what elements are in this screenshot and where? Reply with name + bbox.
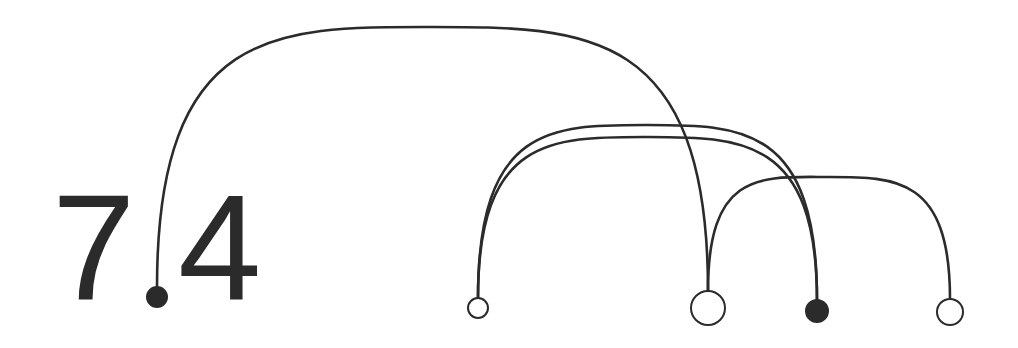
arc-diagram-canvas	[0, 0, 1018, 348]
open-node-E	[937, 299, 963, 325]
arc-B-D-outer	[478, 125, 817, 300]
arc-C-E	[708, 177, 950, 299]
filled-node-D	[806, 300, 828, 322]
digit-four-label: 4	[178, 172, 261, 322]
filled-node-A	[147, 287, 167, 307]
arc-diagram: 7 4	[0, 0, 1018, 348]
open-node-C	[691, 291, 725, 325]
arc-B-D-inner	[478, 137, 817, 300]
open-node-B	[468, 298, 488, 318]
digit-seven-label: 7	[52, 172, 135, 322]
